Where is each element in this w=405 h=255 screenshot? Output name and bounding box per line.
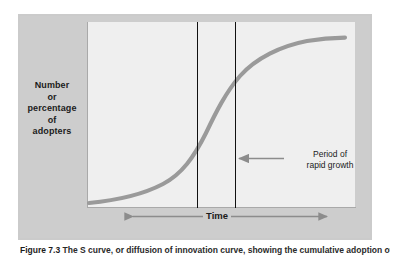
y-axis-label-line-2: or [20, 92, 84, 104]
figure-caption-text: The S curve, or diffusion of innovation … [63, 245, 390, 255]
figure-caption: Figure 7.3 The S curve, or diffusion of … [20, 245, 390, 255]
x-axis-line [87, 207, 356, 208]
figure-root: Number or percentage of adopters Perio [0, 0, 405, 255]
y-axis-label: Number or percentage of adopters [20, 80, 84, 138]
y-axis-label-line-5: adopters [20, 126, 84, 138]
y-axis-label-line-4: of [20, 115, 84, 127]
y-axis-label-line-1: Number [20, 80, 84, 92]
annotation-line-2: rapid growth [288, 160, 372, 171]
y-axis-label-line-3: percentage [20, 103, 84, 115]
plot-area [88, 22, 355, 207]
annotation-line-1: Period of [288, 149, 372, 160]
rapid-growth-start-line [197, 22, 198, 208]
y-axis-line [87, 22, 88, 208]
x-axis-label: Time [203, 210, 231, 222]
rapid-growth-annotation: Period of rapid growth [288, 149, 372, 170]
rapid-growth-end-line [235, 22, 236, 208]
figure-caption-number: Figure 7.3 [20, 245, 60, 255]
